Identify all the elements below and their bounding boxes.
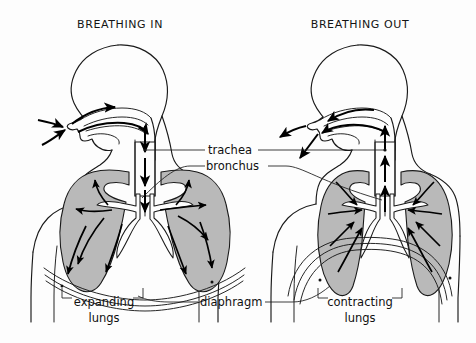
- neck-back-outline-out: [402, 116, 430, 174]
- panel-title-breathing-in: BREATHING IN: [77, 18, 163, 31]
- panel-breathing-out: [271, 45, 460, 322]
- label-bronchus: bronchus: [206, 159, 259, 173]
- panel-breathing-in: [31, 45, 245, 322]
- arm-left-outline-out: [271, 252, 273, 322]
- label-diaphragm: diaphragm: [200, 295, 262, 309]
- arrow-nostril-in-lower: [42, 130, 65, 145]
- label-expanding-lungs-line2: lungs: [88, 311, 119, 325]
- head-outline: [118, 45, 167, 150]
- lung-right-expanded: [161, 170, 230, 292]
- diagram-canvas: BREATHING IN BREATHING OUT: [0, 0, 476, 343]
- leader-contracting-lungs-right: [392, 288, 402, 298]
- panel-title-breathing-out: BREATHING OUT: [311, 18, 410, 31]
- arrow-nostril-in-upper: [38, 120, 63, 127]
- respiratory-diagram-figure: BREATHING IN BREATHING OUT: [0, 0, 476, 343]
- arrow-mouth-out-down: [300, 134, 318, 158]
- arrow-nasal-passage-out: [328, 109, 374, 121]
- shoulder-left-outline-out: [273, 204, 316, 252]
- label-trachea: trachea: [208, 143, 252, 157]
- head-outline-out: [358, 45, 407, 150]
- leader-expanding-lungs-right: [133, 288, 143, 298]
- forehead-outline: [71, 45, 118, 117]
- label-expanding-lungs-line1: expanding: [74, 295, 134, 309]
- neck-back-outline: [162, 116, 190, 174]
- anchor-dot-expanding-lungs-left: [61, 285, 64, 288]
- leader-diaphragm-left: [138, 296, 198, 302]
- torso-left-inner-out: [294, 246, 297, 322]
- anchor-dot-contracting-lungs-right: [449, 277, 452, 280]
- leader-diaphragm-right: [265, 286, 330, 302]
- anchor-dot-contracting-lungs-left: [319, 279, 322, 282]
- tongue-outline: [88, 134, 119, 144]
- tongue-outline-out: [328, 134, 359, 144]
- palate-line: [86, 126, 146, 134]
- nasal-cavity-upper: [80, 108, 151, 120]
- label-contracting-lungs-line2: lungs: [344, 311, 375, 325]
- arm-right-outline-out: [458, 236, 460, 322]
- anchor-dot-expanding-lungs-right: [211, 281, 214, 284]
- forehead-outline-out: [311, 45, 358, 117]
- label-contracting-lungs-line1: contracting: [327, 295, 393, 309]
- arm-left-outline: [31, 252, 33, 322]
- arrow-nostril-out-side: [280, 126, 306, 137]
- nasal-cavity-lower: [84, 117, 148, 126]
- torso-left-inner: [54, 246, 57, 322]
